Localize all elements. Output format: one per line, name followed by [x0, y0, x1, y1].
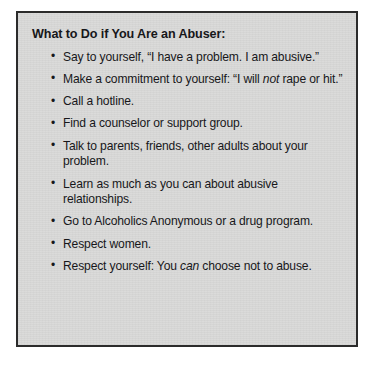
advice-text: Respect women. — [63, 237, 151, 251]
advice-sidebar-box: What to Do if You Are an Abuser: Say to … — [16, 11, 358, 347]
advice-text-suffix: choose not to abuse. — [199, 259, 312, 273]
advice-list-item: Learn as much as you can about abusive r… — [51, 177, 344, 208]
advice-text: Respect yourself: You — [63, 259, 180, 273]
advice-text-suffix: rape or hit.” — [279, 72, 342, 86]
advice-list-item: Respect yourself: You can choose not to … — [51, 259, 344, 275]
advice-list-item: Respect women. — [51, 237, 344, 253]
advice-list: Say to yourself, “I have a problem. I am… — [30, 50, 344, 275]
advice-text: Go to Alcoholics Anonymous or a drug pro… — [63, 214, 313, 228]
advice-list-item: Go to Alcoholics Anonymous or a drug pro… — [51, 214, 344, 230]
advice-text: Find a counselor or support group. — [63, 116, 243, 130]
advice-text: Learn as much as you can about abusive r… — [63, 177, 278, 207]
advice-text: Say to yourself, “I have a problem. I am… — [63, 50, 319, 64]
advice-list-item: Call a hotline. — [51, 94, 344, 110]
advice-list-item: Talk to parents, friends, other adults a… — [51, 139, 344, 170]
advice-text: Call a hotline. — [63, 94, 134, 108]
advice-emphasis: not — [263, 72, 279, 86]
advice-text: Talk to parents, friends, other adults a… — [63, 139, 308, 169]
box-title: What to Do if You Are an Abuser: — [32, 27, 344, 43]
advice-list-item: Find a counselor or support group. — [51, 116, 344, 132]
advice-list-item: Make a commitment to yourself: “I will n… — [51, 72, 344, 88]
advice-emphasis: can — [180, 259, 199, 273]
advice-list-item: Say to yourself, “I have a problem. I am… — [51, 50, 344, 66]
advice-text: Make a commitment to yourself: “I will — [63, 72, 263, 86]
